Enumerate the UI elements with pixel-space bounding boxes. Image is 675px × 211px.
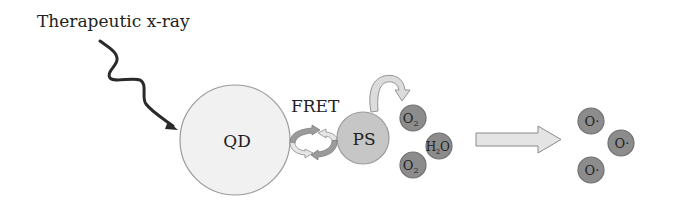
radical-o-bottom: O· (578, 157, 604, 183)
molecule-o2-top: O 2 (400, 105, 426, 131)
quantum-dot: QD (180, 85, 290, 195)
radical-o-top: O· (578, 108, 604, 134)
molecule-o2-bottom: O 2 (400, 152, 426, 178)
svg-text:2: 2 (413, 119, 418, 128)
qd-label: QD (223, 131, 251, 151)
svg-text:O: O (403, 111, 414, 126)
svg-text:2: 2 (413, 166, 418, 175)
svg-text:O·: O· (585, 114, 600, 129)
svg-text:H: H (426, 140, 436, 154)
therapeutic-xray-label: Therapeutic x-ray (37, 11, 190, 31)
svg-text:O: O (440, 140, 450, 154)
reaction-arrow-icon (476, 126, 561, 153)
svg-text:O·: O· (585, 163, 600, 178)
molecule-h2o: H 2 O (426, 133, 452, 159)
diagram-canvas: Therapeutic x-ray QD FRET PS O 2 H (0, 0, 675, 211)
photosensitizer: PS (337, 112, 389, 164)
radical-o-middle: O· (608, 130, 634, 156)
xray-wave-arrow-icon (100, 41, 178, 130)
fret-cycle-arrows-icon (290, 125, 337, 160)
ps-label: PS (352, 129, 375, 149)
svg-text:O·: O· (615, 136, 630, 151)
energy-transfer-arrow-icon (370, 75, 410, 112)
svg-text:O: O (403, 158, 414, 173)
fret-label: FRET (291, 96, 340, 116)
